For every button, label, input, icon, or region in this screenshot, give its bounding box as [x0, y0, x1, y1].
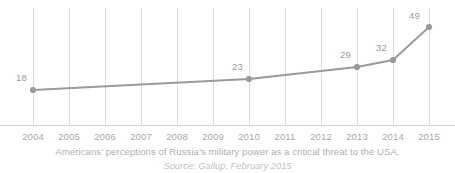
chart-source-note: Source: Gallup, February 2015: [0, 160, 455, 171]
data-label-2004: 18: [16, 72, 27, 83]
x-axis-tick-labels: 2004 2005 2006 2007 2008 2009 2010 2011 …: [0, 131, 455, 144]
data-point-2010: [246, 76, 252, 82]
series-line-russia-threat: [33, 27, 429, 90]
x-tick-2005: 2005: [58, 131, 80, 142]
x-tick-2009: 2009: [202, 131, 224, 142]
plot-area: 18 23 29 32 49: [0, 0, 455, 130]
x-tick-2008: 2008: [166, 131, 188, 142]
x-tick-2014: 2014: [382, 131, 404, 142]
data-label-2013: 29: [340, 49, 351, 60]
data-point-2015: [426, 24, 432, 30]
data-label-2014: 32: [376, 42, 387, 53]
x-tick-2004: 2004: [22, 131, 44, 142]
data-label-2015: 49: [409, 10, 420, 21]
x-tick-2013: 2013: [346, 131, 368, 142]
data-point-2004: [30, 87, 36, 93]
x-tick-2015: 2015: [418, 131, 440, 142]
chart-canvas: [0, 0, 455, 130]
data-label-2010: 23: [232, 61, 243, 72]
x-tick-2011: 2011: [275, 131, 296, 142]
chart-caption: Americans’ perceptions of Russia’s milit…: [0, 146, 455, 157]
data-point-2014: [390, 57, 396, 63]
x-tick-2006: 2006: [94, 131, 116, 142]
x-tick-2012: 2012: [310, 131, 332, 142]
data-point-2013: [354, 64, 360, 70]
x-tick-2010: 2010: [238, 131, 260, 142]
x-tick-2007: 2007: [130, 131, 152, 142]
line-chart-figure: 18 23 29 32 49 2004 2005 2006 2007 2008 …: [0, 0, 455, 173]
series-markers: [30, 24, 432, 93]
